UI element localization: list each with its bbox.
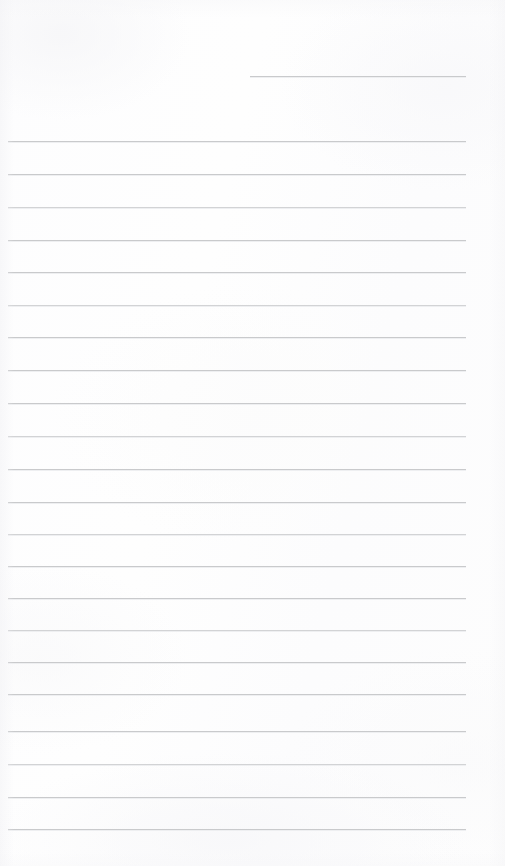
rule-line — [8, 403, 466, 404]
rule-line — [8, 662, 466, 663]
paper-edge-vignette — [0, 0, 505, 866]
rule-line — [8, 566, 466, 567]
rule-line — [8, 534, 466, 535]
rule-line — [8, 630, 466, 631]
rule-line — [8, 174, 466, 175]
rule-line — [8, 436, 466, 437]
rule-line — [8, 207, 466, 208]
rule-line — [8, 598, 466, 599]
rule-line — [8, 141, 466, 142]
rule-line — [8, 240, 466, 241]
header-rule-line — [250, 76, 466, 77]
rule-line — [8, 272, 466, 273]
rule-line — [8, 829, 466, 830]
rule-line — [8, 764, 466, 765]
rule-line — [8, 731, 466, 732]
lined-paper-page — [0, 0, 505, 866]
rule-line — [8, 502, 466, 503]
rule-line — [8, 370, 466, 371]
rule-line — [8, 337, 466, 338]
rule-line — [8, 694, 466, 695]
rule-line — [8, 797, 466, 798]
rule-line — [8, 469, 466, 470]
rule-line — [8, 305, 466, 306]
